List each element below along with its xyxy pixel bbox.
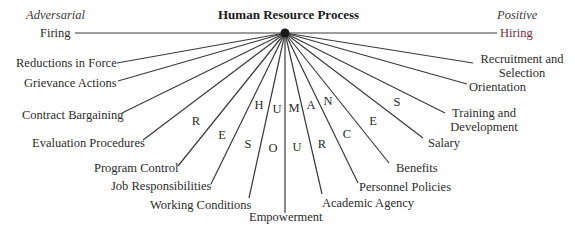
arc-letter: R — [318, 137, 326, 152]
spoke-label-working-conditions: Working Conditions — [150, 198, 251, 212]
spoke-label-grievance-actions: Grievance Actions — [24, 76, 117, 90]
spoke-label-salary: Salary — [428, 136, 460, 150]
hub-dot — [281, 29, 290, 38]
spoke-label-program-control: Program Control — [94, 161, 178, 175]
hr-process-diagram: Human Resource Process Adversarial Posit… — [0, 0, 575, 235]
arc-letter: O — [268, 141, 277, 156]
arc-letter: H — [254, 98, 263, 113]
arc-letter: M — [288, 101, 299, 116]
adversarial-pole-label: Adversarial — [26, 8, 85, 22]
spoke-label-orientation: Orientation — [469, 80, 526, 94]
arc-letter: A — [306, 98, 315, 113]
spoke-label-personnel-policies: Personnel Policies — [359, 180, 451, 194]
spoke-label-line: Training and — [448, 106, 520, 120]
spoke-label-hiring: Hiring — [500, 26, 533, 40]
spoke-label-line: Selection — [476, 66, 568, 80]
arc-letter: S — [394, 95, 401, 110]
arc-letter: U — [292, 140, 301, 155]
spoke-line — [143, 33, 285, 140]
spoke-label-academic-agency: Academic Agency — [322, 196, 414, 210]
arc-letter: E — [369, 114, 377, 129]
arc-letter: S — [245, 137, 252, 152]
spoke-label-empowerment: Empowerment — [249, 210, 323, 224]
spoke-line — [117, 33, 285, 63]
spoke-label-firing: Firing — [40, 26, 71, 40]
spoke-label-recruitment-and-selection: Recruitment and Selection — [476, 52, 568, 80]
spoke-label-reductions-in-force: Reductions in Force — [16, 56, 117, 70]
arc-letter: N — [323, 94, 332, 109]
spoke-line — [285, 33, 467, 84]
spoke-label-evaluation-procedures: Evaluation Procedures — [32, 136, 145, 150]
arc-letter: R — [192, 114, 200, 129]
spoke-label-line: Recruitment and — [476, 52, 568, 66]
spoke-label-training-and-development: Training and Development — [448, 106, 520, 134]
arc-letter: C — [343, 127, 351, 142]
diagram-title: Human Resource Process — [218, 8, 359, 22]
arc-letter: E — [218, 128, 226, 143]
spoke-label-contract-bargaining: Contract Bargaining — [22, 108, 123, 122]
spoke-label-job-responsibilities: Job Responsibilities — [111, 179, 211, 193]
arc-letter: U — [272, 102, 281, 117]
positive-pole-label: Positive — [497, 8, 537, 22]
spoke-label-line: Development — [448, 120, 520, 134]
spoke-line — [285, 33, 473, 63]
spoke-label-benefits: Benefits — [396, 161, 438, 175]
